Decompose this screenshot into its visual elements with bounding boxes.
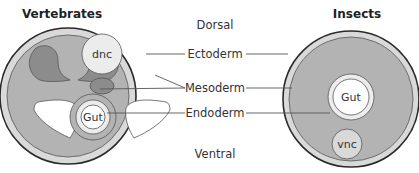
ventral-label: Ventral [195,147,236,161]
dnc-label: dnc [92,48,112,61]
mesoderm-line-left-a [155,75,185,88]
endoderm-label: Endoderm [186,106,245,120]
vertebrate-gut-label: Gut [83,111,103,124]
ectoderm-label: Ectoderm [187,47,242,61]
notochord [90,78,114,94]
insects-title: Insects [333,7,381,21]
mesoderm-label: Mesoderm [185,81,245,95]
vertebrate-cross-section [0,28,170,164]
vertebrates-title: Vertebrates [22,7,102,21]
right-coelom [126,100,170,138]
germ-layer-diagram: Vertebrates Insects Dorsal Ventral Ectod… [0,0,419,173]
vnc-label: vnc [337,138,357,151]
dorsal-label: Dorsal [197,18,234,32]
insect-gut-label: Gut [341,91,361,104]
